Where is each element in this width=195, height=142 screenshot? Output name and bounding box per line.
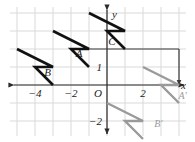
coordinate-plane: −4−221−2O ABCA′B′ x y	[0, 0, 195, 142]
point-label-A: A	[75, 47, 83, 59]
x-tick-label: −4	[29, 87, 42, 99]
x-tick-label: −2	[65, 87, 78, 99]
origin-label: O	[94, 87, 102, 99]
y-axis-label: y	[111, 8, 117, 20]
x-axis-label: x	[180, 79, 186, 91]
y-tick-label: −2	[89, 115, 102, 127]
x-tick-label: 2	[140, 87, 146, 99]
point-label-A-prime: A′	[177, 90, 187, 101]
point-label-C: C	[108, 35, 116, 47]
point-label-B-prime: B′	[154, 118, 163, 129]
point-label-B: B	[44, 66, 51, 78]
y-tick-label: 1	[97, 61, 103, 73]
figure-root: −4−221−2O ABCA′B′ x y	[0, 0, 195, 142]
